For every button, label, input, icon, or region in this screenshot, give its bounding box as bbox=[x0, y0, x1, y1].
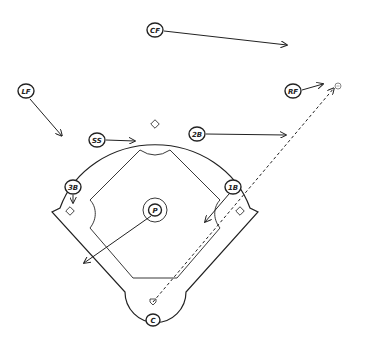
position-label-rf: RF bbox=[288, 88, 298, 96]
position-1b: 1B bbox=[225, 180, 241, 194]
p-arrow bbox=[84, 216, 151, 263]
position-2b: 2B bbox=[189, 127, 205, 141]
first-base bbox=[236, 207, 244, 215]
outfield-boundary bbox=[52, 145, 258, 323]
cf-arrow bbox=[164, 31, 287, 45]
position-3b: 3B bbox=[65, 180, 81, 194]
2b-arrow bbox=[206, 134, 286, 135]
third-base bbox=[66, 207, 74, 215]
position-label-p: P bbox=[152, 207, 158, 215]
position-p: P bbox=[149, 204, 162, 216]
position-label-2b: 2B bbox=[192, 131, 202, 139]
1b-arrow bbox=[205, 194, 229, 222]
rf-arrow bbox=[302, 84, 323, 90]
position-label-3b: 3B bbox=[68, 184, 78, 192]
baseball-field-diagram: CF LF RF SS 2B 3B 1B P C bbox=[0, 0, 367, 347]
position-label-lf: LF bbox=[21, 88, 30, 96]
second-base bbox=[151, 120, 159, 128]
lf-arrow bbox=[30, 99, 62, 136]
position-label-1b: 1B bbox=[228, 184, 238, 192]
position-ss: SS bbox=[89, 133, 105, 147]
position-lf: LF bbox=[18, 84, 34, 98]
position-label-ss: SS bbox=[92, 137, 102, 145]
ss-arrow bbox=[106, 140, 135, 141]
ball-path-line bbox=[153, 88, 334, 302]
position-label-c: C bbox=[150, 317, 156, 325]
position-cf: CF bbox=[147, 23, 163, 37]
position-label-cf: CF bbox=[150, 27, 160, 35]
position-rf: RF bbox=[285, 84, 301, 98]
position-c: C bbox=[146, 314, 160, 326]
